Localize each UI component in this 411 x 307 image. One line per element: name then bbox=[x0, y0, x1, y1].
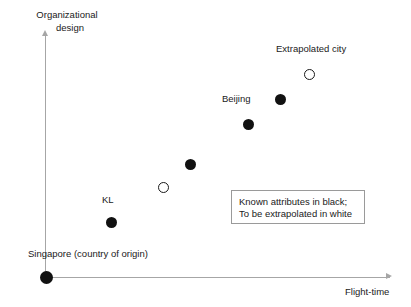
data-point-known-3 bbox=[185, 159, 196, 170]
legend-line-known: Known attributes in black; bbox=[239, 196, 364, 208]
data-point-known-5 bbox=[275, 94, 286, 105]
x-axis-label: Flight-time bbox=[345, 286, 389, 299]
legend-line-extrapolated: To be extrapolated in white bbox=[239, 208, 364, 220]
y-axis-label-line2: design bbox=[21, 22, 113, 35]
data-point-extrapolated-city bbox=[304, 69, 315, 80]
x-axis-arrow-icon bbox=[386, 273, 392, 279]
data-point-label-singapore: Singapore (country of origin) bbox=[28, 248, 148, 260]
data-point-beijing bbox=[243, 119, 254, 130]
data-point-singapore bbox=[40, 271, 53, 284]
y-axis-label: Organizational design bbox=[21, 9, 113, 34]
x-axis-line bbox=[46, 277, 390, 278]
scatter-chart: Organizational design Flight-time Singap… bbox=[0, 0, 411, 307]
data-point-label-beijing: Beijing bbox=[222, 93, 251, 105]
data-point-extrapolated-1 bbox=[158, 182, 169, 193]
y-axis-label-line1: Organizational bbox=[36, 9, 97, 20]
data-point-label-kl: KL bbox=[102, 194, 114, 206]
legend-box: Known attributes in black; To be extrapo… bbox=[231, 190, 365, 224]
data-point-kl bbox=[106, 217, 117, 228]
data-point-label-extrapolated-city: Extrapolated city bbox=[276, 43, 346, 55]
y-axis-line bbox=[45, 34, 46, 277]
